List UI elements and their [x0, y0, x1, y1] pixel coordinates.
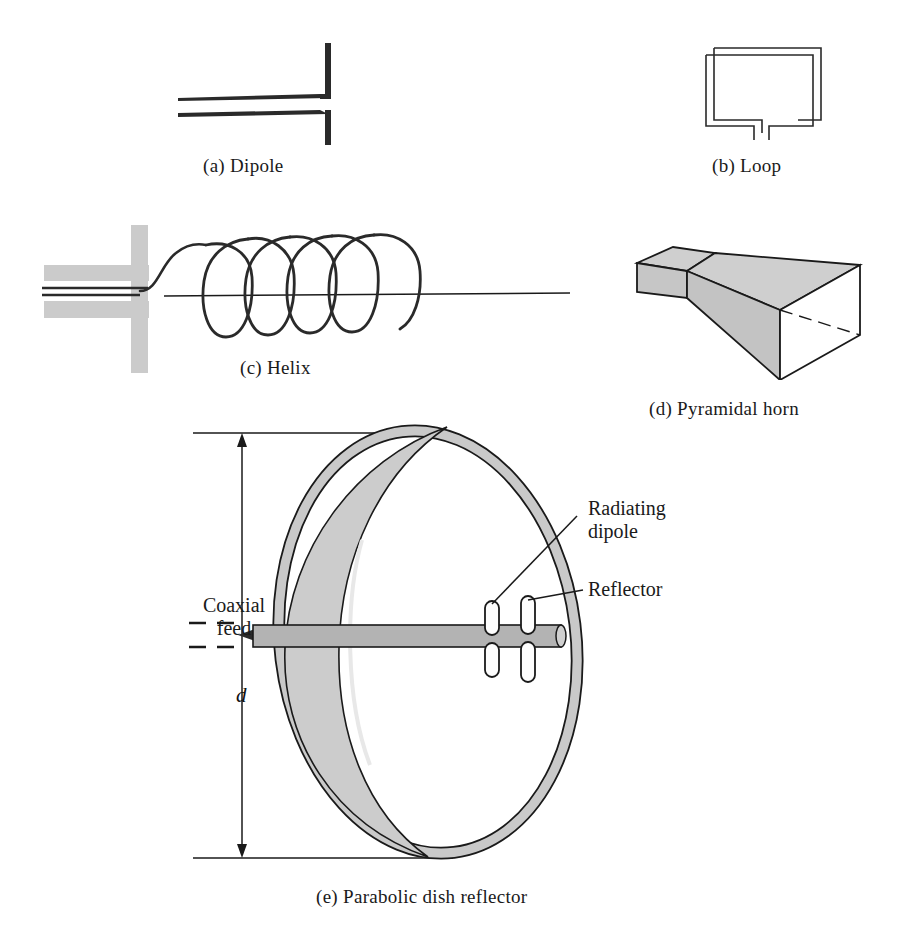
loop-back-turn: [714, 48, 821, 120]
label-diameter-d: d: [236, 683, 247, 708]
caption-helix: (c) Helix: [240, 357, 311, 379]
parabolic-dish-diagram: [185, 420, 665, 870]
reflector-lower-rod: [521, 642, 535, 682]
caption-loop: (b) Loop: [712, 155, 781, 177]
reflector-upper-rod: [521, 596, 535, 634]
dipole-svg: [160, 25, 380, 145]
feed-boom-end-cap: [556, 625, 566, 647]
antenna-types-figure: (a) Dipole (b) Loop: [0, 0, 899, 936]
helix-diagram: [0, 225, 580, 375]
helix-winding: [203, 235, 420, 337]
pyramidal-horn-diagram: [615, 225, 890, 380]
helix-svg: [0, 225, 580, 375]
loop-diagram: [690, 28, 860, 153]
caption-parabolic-dish: (e) Parabolic dish reflector: [316, 886, 528, 908]
dish-bowl-highlight: [350, 540, 370, 765]
dimension-arrowhead-bottom: [237, 844, 247, 858]
dipole-diagram: [160, 25, 380, 145]
label-reflector: Reflector: [588, 578, 662, 601]
radiating-dipole-upper-rod: [485, 601, 499, 635]
helix-feed-transition: [140, 244, 206, 291]
caption-dipole: (a) Dipole: [203, 155, 284, 177]
radiating-dipole-lower-rod: [485, 643, 499, 677]
dipole-lower-arm: [325, 110, 331, 145]
loop-back-turn-lead: [714, 48, 762, 133]
feed-boom: [253, 625, 561, 647]
label-radiating-dipole: Radiating dipole: [588, 497, 666, 543]
helix-turn-5: [374, 235, 420, 329]
label-coaxial-feed: Coaxial feed: [191, 594, 277, 640]
dipole-upper-feed-line: [178, 94, 328, 101]
dimension-arrowhead-top: [237, 433, 247, 447]
dipole-upper-arm: [320, 43, 331, 99]
pyramidal-horn-svg: [615, 225, 890, 380]
helix-ground-plane: [131, 225, 148, 373]
parabolic-dish-svg: [185, 420, 665, 870]
loop-front-turn: [706, 55, 813, 140]
caption-pyramidal-horn: (d) Pyramidal horn: [649, 398, 799, 420]
helix-axis-line: [164, 293, 570, 296]
loop-svg: [690, 28, 860, 153]
dipole-lower-feed-line: [178, 110, 328, 117]
